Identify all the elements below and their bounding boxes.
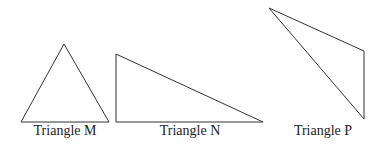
triangle-m xyxy=(21,44,109,122)
triangle-m-label: Triangle M xyxy=(34,124,97,138)
triangle-p xyxy=(269,8,364,119)
triangle-p-label: Triangle P xyxy=(294,124,352,138)
triangle-n-label: Triangle N xyxy=(160,124,221,138)
triangle-n xyxy=(116,54,263,122)
